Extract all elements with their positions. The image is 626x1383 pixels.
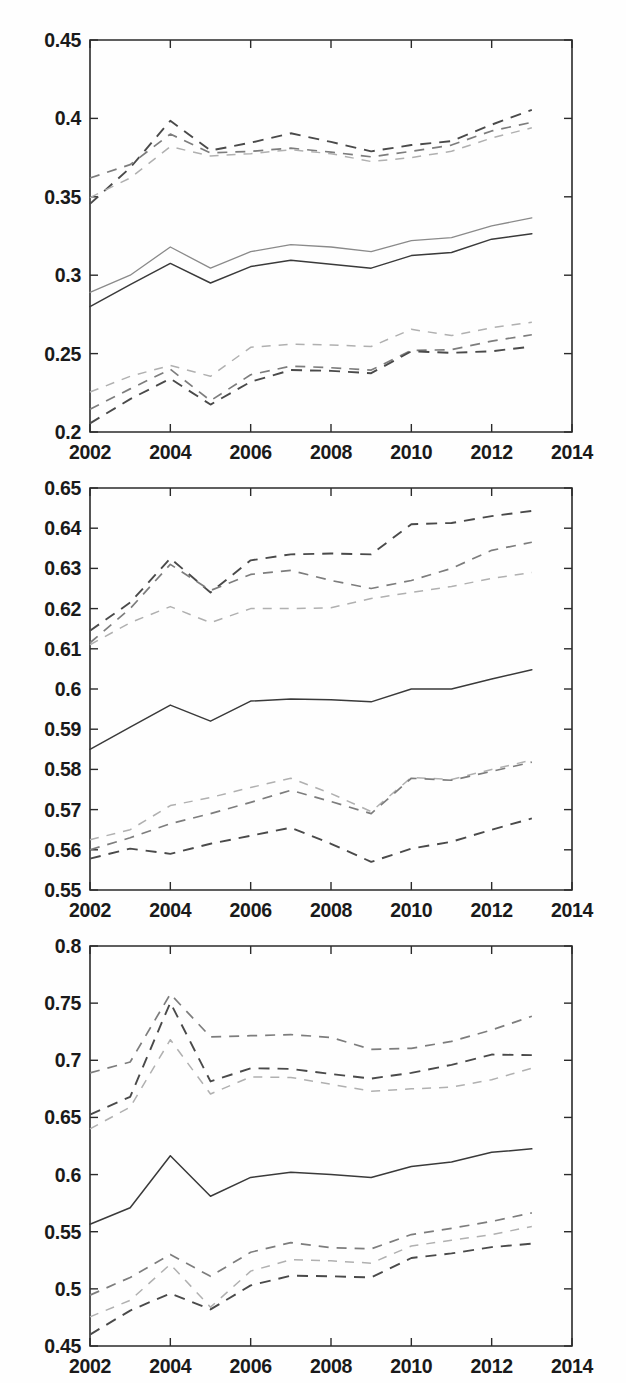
y-tick-label: 0.25 (44, 343, 81, 365)
y-tick-label: 0.8 (55, 935, 82, 957)
y-tick-label: 0.35 (44, 186, 81, 208)
series-line-upper-band-mid (90, 122, 532, 178)
x-tick-label: 2002 (69, 899, 112, 921)
y-tick-label: 0.58 (44, 758, 81, 780)
y-tick-label: 0.6 (55, 1164, 82, 1186)
series-line-lower-band-mid (90, 335, 532, 409)
y-tick-label: 0.63 (44, 557, 81, 579)
chart-panel-middle: 0.550.560.570.580.590.60.610.620.630.640… (0, 470, 626, 928)
x-tick-label: 2004 (149, 1355, 192, 1377)
y-tick-label: 0.61 (44, 638, 81, 660)
y-tick-label: 0.56 (44, 839, 81, 861)
y-tick-label: 0.3 (55, 264, 82, 286)
y-tick-label: 0.55 (44, 1221, 81, 1243)
x-tick-label: 2002 (69, 441, 112, 463)
series-line-lower-band-dark (90, 818, 532, 861)
x-tick-label: 2004 (149, 441, 192, 463)
y-tick-label: 0.7 (55, 1049, 81, 1071)
y-tick-label: 0.65 (44, 477, 81, 499)
x-tick-label: 2010 (390, 899, 433, 921)
x-tick-label: 2010 (390, 441, 433, 463)
x-tick-label: 2012 (471, 1355, 514, 1377)
x-tick-label: 2014 (551, 899, 594, 921)
series-line-lower-band-dark (90, 347, 532, 424)
series-line-lower-band-dark (90, 1244, 532, 1335)
plot-axis-box (90, 488, 572, 890)
x-tick-label: 2006 (230, 441, 273, 463)
x-tick-label: 2004 (149, 899, 192, 921)
series-line-lower-band-light (90, 760, 532, 840)
series-line-upper-band-light (90, 572, 532, 644)
x-tick-label: 2002 (69, 1355, 112, 1377)
series-line-lower-band-light (90, 1227, 532, 1317)
y-tick-label: 0.5 (55, 1278, 82, 1300)
series-line-central-dark (90, 670, 532, 750)
chart-svg-2: 0.450.50.550.60.650.70.750.8200220042006… (0, 928, 626, 1383)
x-tick-label: 2012 (471, 441, 514, 463)
plot-axis-box (90, 946, 572, 1346)
series-line-lower-band-mid (90, 1213, 532, 1295)
y-tick-label: 0.6 (55, 678, 82, 700)
x-tick-label: 2008 (310, 899, 353, 921)
y-tick-label: 0.64 (44, 517, 81, 539)
y-tick-label: 0.45 (44, 29, 81, 51)
y-tick-label: 0.57 (44, 799, 81, 821)
y-tick-label: 0.55 (44, 879, 81, 901)
y-tick-label: 0.62 (44, 598, 81, 620)
chart-svg-1: 0.550.560.570.580.590.60.610.620.630.640… (0, 470, 626, 928)
y-tick-label: 0.59 (44, 718, 81, 740)
y-tick-label: 0.45 (44, 1335, 81, 1357)
series-line-upper-band-light (90, 1040, 532, 1129)
x-tick-label: 2008 (310, 441, 353, 463)
x-tick-label: 2012 (471, 899, 514, 921)
x-tick-label: 2006 (230, 1355, 273, 1377)
y-tick-label: 0.65 (44, 1106, 81, 1128)
y-tick-label: 0.2 (55, 421, 82, 443)
y-tick-label: 0.4 (55, 107, 82, 129)
chart-svg-0: 0.20.250.30.350.40.452002200420062008201… (0, 0, 626, 470)
series-line-central-dark (90, 234, 532, 307)
series-line-central-light (90, 218, 532, 292)
figure-container: 0.20.250.30.350.40.452002200420062008201… (0, 0, 626, 1383)
series-line-lower-band-light (90, 322, 532, 392)
series-line-upper-band-mid (90, 542, 532, 643)
y-tick-label: 0.75 (44, 992, 81, 1014)
x-tick-label: 2014 (551, 441, 594, 463)
chart-panel-top: 0.20.250.30.350.40.452002200420062008201… (0, 0, 626, 470)
x-tick-label: 2014 (551, 1355, 594, 1377)
series-line-central-dark (90, 1149, 532, 1224)
series-line-upper-band-dark (90, 110, 532, 204)
x-tick-label: 2008 (310, 1355, 353, 1377)
chart-panel-bottom: 0.450.50.550.60.650.70.750.8200220042006… (0, 928, 626, 1383)
x-tick-label: 2006 (230, 899, 273, 921)
x-tick-label: 2010 (390, 1355, 433, 1377)
